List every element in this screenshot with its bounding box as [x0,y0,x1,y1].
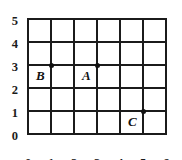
y-tick-2: 2 [6,84,18,97]
coordinate-grid-figure: B A C 0 1 2 3 4 5 6 0 1 2 3 4 5 [0,0,182,160]
x-tick-3: 3 [90,157,104,160]
x-tick-4: 4 [113,157,127,160]
x-tick-0: 0 [21,157,35,160]
grid-lines [28,19,166,134]
x-tick-2: 2 [67,157,81,160]
data-point-B [49,63,54,68]
data-point-label-A: A [82,69,91,82]
data-point-label-B: B [36,69,45,82]
y-tick-4: 4 [6,38,18,51]
x-tick-5: 5 [136,157,150,160]
plot-area: B A C 0 1 2 3 4 5 6 0 1 2 3 4 5 [28,19,166,134]
y-tick-0: 0 [6,130,18,143]
x-tick-1: 1 [44,157,58,160]
y-tick-5: 5 [6,15,18,28]
data-point-label-C: C [128,115,137,128]
x-tick-6: 6 [159,157,173,160]
data-point-A [95,63,100,68]
data-point-C [141,109,146,114]
y-tick-1: 1 [6,107,18,120]
y-tick-3: 3 [6,61,18,74]
